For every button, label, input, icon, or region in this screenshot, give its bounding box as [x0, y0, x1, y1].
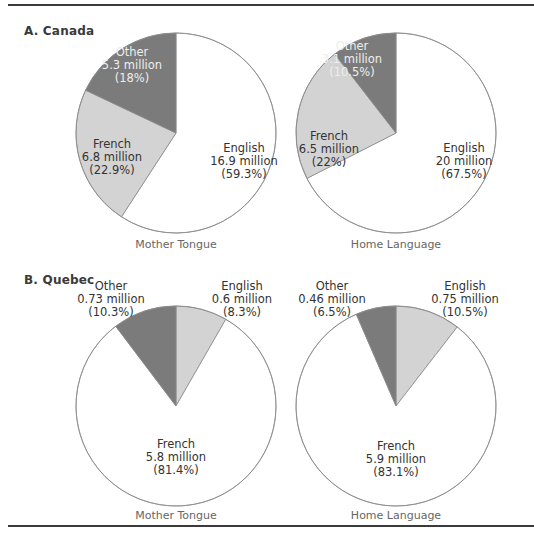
pie-charts: English16.9 million(59.3%)French6.8 mill… — [0, 0, 534, 541]
caption-canada-mother-tongue: Mother Tongue — [76, 238, 276, 251]
slice-label-english: English0.6 million(8.3%) — [212, 279, 272, 319]
caption-quebec-mother-tongue: Mother Tongue — [76, 509, 276, 522]
pie-0: English16.9 million(59.3%)French6.8 mill… — [76, 33, 278, 233]
slice-label-other: Other0.46 million(6.5%) — [298, 279, 366, 319]
slice-label-english: English0.75 million(10.5%) — [431, 279, 499, 319]
caption-quebec-home-language: Home Language — [296, 509, 496, 522]
caption-canada-home-language: Home Language — [296, 238, 496, 251]
pie-2: English0.6 million(8.3%)French5.8 millio… — [76, 279, 276, 506]
pie-3: English0.75 million(10.5%)French5.9 mill… — [296, 279, 499, 506]
slice-label-other: Other0.73 million(10.3%) — [77, 279, 145, 319]
pie-1: English20 million(67.5%)French6.5 millio… — [296, 33, 496, 233]
slice-label-english: English20 million(67.5%) — [436, 141, 493, 181]
